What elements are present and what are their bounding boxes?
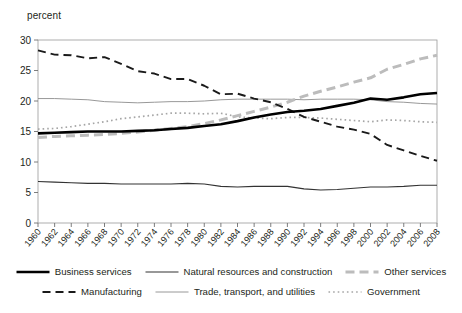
svg-text:2004: 2004	[388, 227, 409, 249]
legend-item-manufacturing[interactable]: Manufacturing	[42, 287, 142, 297]
svg-text:1974: 1974	[139, 227, 160, 249]
legend-row-1: Business services Natural resources and …	[0, 262, 462, 282]
svg-text:1990: 1990	[272, 227, 293, 249]
svg-text:1994: 1994	[305, 227, 326, 249]
legend-item-natural-resources-and-construction[interactable]: Natural resources and construction	[145, 267, 333, 277]
svg-text:2002: 2002	[372, 227, 393, 249]
legend-label-other-services: Other services	[384, 267, 446, 277]
legend-label-manufacturing: Manufacturing	[81, 287, 142, 297]
svg-text:2008: 2008	[421, 227, 442, 249]
chart-container: percent 051015202530 1960196219641966196…	[0, 0, 462, 313]
legend-swatch-business-services	[16, 267, 50, 277]
svg-text:1982: 1982	[205, 227, 226, 249]
svg-text:1964: 1964	[56, 227, 77, 249]
x-axis: 1960196219641966196819701972197419761978…	[22, 223, 442, 249]
svg-text:1962: 1962	[39, 227, 60, 249]
svg-text:0: 0	[25, 218, 31, 229]
legend-row-2: Manufacturing Trade, transport, and util…	[0, 282, 462, 302]
legend-label-government: Government	[367, 287, 420, 297]
y-axis: 051015202530	[20, 35, 38, 229]
legend-swatch-manufacturing	[42, 287, 76, 297]
svg-text:1996: 1996	[322, 227, 343, 249]
svg-text:1980: 1980	[189, 227, 210, 249]
svg-text:1988: 1988	[255, 227, 276, 249]
svg-text:5: 5	[25, 187, 31, 198]
legend-label-trade-transport-and-utilities: Trade, transport, and utilities	[194, 287, 315, 297]
svg-text:1992: 1992	[288, 227, 309, 249]
svg-text:1966: 1966	[72, 227, 93, 249]
legend-swatch-government	[328, 287, 362, 297]
svg-text:1984: 1984	[222, 227, 243, 249]
legend-swatch-natural-resources-and-construction	[145, 267, 179, 277]
svg-text:25: 25	[20, 65, 32, 76]
svg-text:1976: 1976	[155, 227, 176, 249]
legend-item-other-services[interactable]: Other services	[345, 267, 446, 277]
svg-text:1972: 1972	[122, 227, 143, 249]
svg-text:1970: 1970	[106, 227, 127, 249]
legend-swatch-other-services	[345, 267, 379, 277]
svg-text:1978: 1978	[172, 227, 193, 249]
svg-text:15: 15	[20, 126, 32, 137]
legend-item-business-services[interactable]: Business services	[16, 267, 132, 277]
svg-text:20: 20	[20, 96, 32, 107]
chart-legend: Business services Natural resources and …	[0, 262, 462, 302]
svg-text:2000: 2000	[355, 227, 376, 249]
svg-text:1986: 1986	[239, 227, 260, 249]
svg-text:1960: 1960	[22, 227, 43, 249]
svg-text:1998: 1998	[338, 227, 359, 249]
svg-text:30: 30	[20, 35, 32, 46]
svg-text:1968: 1968	[89, 227, 110, 249]
svg-text:10: 10	[20, 157, 32, 168]
legend-swatch-trade-transport-and-utilities	[155, 287, 189, 297]
legend-label-business-services: Business services	[55, 267, 132, 277]
legend-label-natural-resources-and-construction: Natural resources and construction	[184, 267, 333, 277]
legend-item-government[interactable]: Government	[328, 287, 420, 297]
svg-text:2006: 2006	[405, 227, 426, 249]
legend-item-trade-transport-and-utilities[interactable]: Trade, transport, and utilities	[155, 287, 315, 297]
